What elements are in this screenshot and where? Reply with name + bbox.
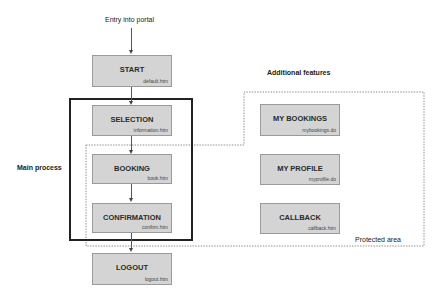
connector	[131, 87, 132, 102]
node-title: START	[93, 65, 171, 74]
node-callback: CALLBACK callback.htm	[260, 203, 340, 234]
main-process-label: Main process	[17, 164, 62, 171]
node-logout: LOGOUT logout.htm	[92, 253, 172, 285]
entry-label: Entry into portal	[105, 16, 154, 23]
arrow-icon	[129, 198, 133, 202]
node-start: START default.htm	[92, 55, 172, 87]
protected-area-label: Protected area	[355, 236, 401, 243]
node-booking: BOOKING book.htm	[92, 154, 172, 184]
entry-connector	[131, 28, 132, 51]
node-file: book.htm	[147, 175, 168, 181]
connector	[131, 136, 132, 151]
node-selection: SELECTION information.htm	[92, 105, 172, 136]
node-file: callback.htm	[308, 225, 336, 231]
additional-features-label: Additional features	[267, 69, 330, 76]
node-title: LOGOUT	[93, 263, 171, 272]
node-file: confirm.htm	[142, 224, 168, 230]
node-title: MY PROFILE	[261, 164, 339, 173]
node-title: MY BOOKINGS	[261, 114, 339, 123]
node-file: mybookings.do	[302, 127, 336, 133]
node-my-bookings: MY BOOKINGS mybookings.do	[260, 104, 340, 136]
node-title: CALLBACK	[261, 213, 339, 222]
node-file: myprofile.do	[309, 176, 336, 182]
connector	[131, 233, 132, 249]
arrow-icon	[129, 248, 133, 252]
node-file: logout.htm	[145, 276, 168, 282]
node-confirmation: CONFIRMATION confirm.htm	[92, 203, 172, 233]
arrow-icon	[129, 50, 133, 54]
node-title: BOOKING	[93, 164, 171, 173]
protected-area-outline	[0, 0, 438, 295]
connector	[131, 184, 132, 199]
node-title: CONFIRMATION	[93, 213, 171, 222]
node-file: information.htm	[134, 127, 168, 133]
node-my-profile: MY PROFILE myprofile.do	[260, 154, 340, 185]
node-title: SELECTION	[93, 115, 171, 124]
node-file: default.htm	[143, 78, 168, 84]
